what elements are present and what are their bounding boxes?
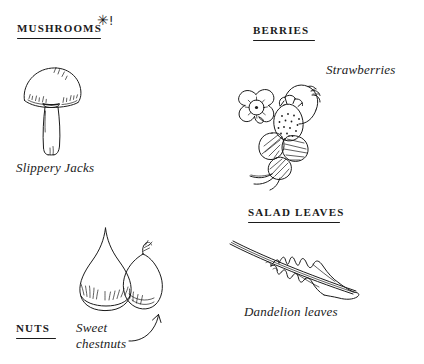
curved-arrow-up-icon [128, 312, 170, 346]
section-heading-nuts: NUTS [16, 322, 56, 339]
heading-underline-mushrooms [17, 38, 101, 39]
section-heading-berries-label: BERRIES [253, 24, 315, 37]
caption-slippery-jacks: Slippery Jacks [16, 160, 94, 176]
dandelion-leaf-drawing-icon [227, 236, 379, 308]
mushroom-drawing-icon [18, 56, 92, 156]
pointer-arrow-sweet-chestnuts [128, 312, 170, 346]
mushroom-illustration [18, 56, 92, 156]
dandelion-illustration [227, 236, 379, 308]
section-heading-mushrooms-label: MUSHROOMS [17, 22, 101, 35]
asterisk-star-icon: ✳ [97, 12, 109, 28]
heading-underline-nuts [16, 338, 56, 339]
caption-strawberries: Strawberries [326, 62, 396, 78]
section-heading-salad-leaves: SALAD LEAVES [248, 206, 340, 223]
strawberry-illustration [232, 70, 344, 182]
exclamation-icon: ! [109, 14, 114, 28]
section-heading-salad-leaves-label: SALAD LEAVES [248, 206, 340, 219]
heading-underline-salad-leaves [248, 222, 340, 223]
foraging-board: MUSHROOMS ✳! [0, 0, 424, 364]
heading-underline-berries [253, 40, 315, 41]
caption-sweet-chestnuts: Sweet chestnuts [76, 320, 126, 352]
section-heading-berries: BERRIES [253, 24, 315, 41]
highlight-marker-mushrooms: ✳! [97, 14, 114, 28]
section-heading-nuts-label: NUTS [16, 322, 56, 335]
caption-dandelion-leaves: Dandelion leaves [244, 304, 338, 320]
strawberry-plant-drawing-icon [232, 70, 344, 182]
section-heading-mushrooms: MUSHROOMS [17, 22, 101, 39]
